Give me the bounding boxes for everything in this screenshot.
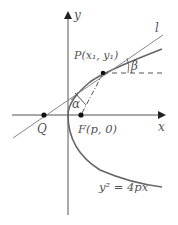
point-Q-label: Q	[37, 122, 47, 136]
point-P	[101, 71, 106, 76]
focal-line-PF	[81, 73, 103, 115]
parabola-diagram: y x l P(x₁, y₁) β α Q F(p, 0) y² = 4px	[0, 0, 178, 225]
alpha-label: α	[72, 97, 80, 111]
parabola-curve	[68, 49, 162, 187]
beta-arc	[127, 58, 129, 73]
point-F	[78, 112, 83, 117]
line-l-label: l	[155, 21, 159, 35]
y-axis-label: y	[73, 8, 81, 22]
point-P-label: P(x₁, y₁)	[73, 49, 118, 62]
point-F-label: F(p, 0)	[77, 122, 117, 136]
equation-label: y² = 4px	[98, 180, 149, 194]
point-Q	[41, 112, 46, 117]
beta-label: β	[130, 59, 138, 73]
x-axis-label: x	[158, 120, 165, 134]
